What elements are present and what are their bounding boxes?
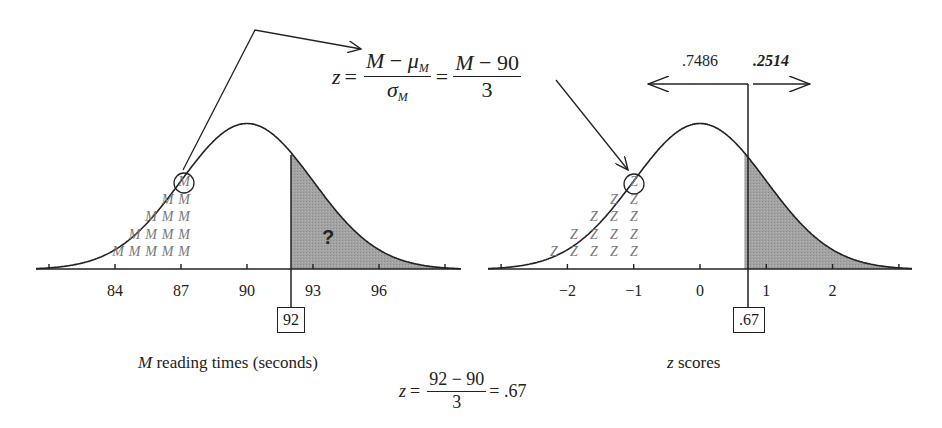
left-normal-curve <box>36 124 461 269</box>
symbol-mark: Z <box>630 244 638 260</box>
symbol-mark: Z <box>570 227 578 243</box>
symbol-mark: Z <box>590 209 598 225</box>
tick-label: 0 <box>696 282 704 300</box>
left-x-axis-label-var: M <box>138 353 152 372</box>
symbol-mark: M <box>162 192 174 208</box>
unknown-area-label: ? <box>322 226 334 249</box>
symbol-mark: Z <box>590 244 598 260</box>
symbol-mark: M <box>178 244 190 260</box>
right-distribution <box>488 84 912 307</box>
symbol-mark: Z <box>610 244 618 260</box>
tick-label: 87 <box>173 282 189 300</box>
formula-fraction-symbolic: M − μM σM <box>364 49 431 104</box>
symbol-mark: M <box>129 227 141 243</box>
symbol-mark: M <box>178 209 190 225</box>
symbol-mark: Z <box>630 209 638 225</box>
symbol-mark: Z <box>590 227 598 243</box>
symbol-mark: Z <box>630 174 638 190</box>
right-x-axis-label-text: scores <box>678 353 720 372</box>
symbol-mark: Z <box>610 227 618 243</box>
right-shaded-tail <box>744 152 912 269</box>
symbol-mark: Z <box>570 244 578 260</box>
formula-equals: = <box>345 64 357 90</box>
symbol-mark: Z <box>610 192 618 208</box>
symbol-mark: M <box>178 192 190 208</box>
tick-label: 1 <box>762 282 770 300</box>
left-x-axis-label-text: reading times (seconds) <box>156 353 317 372</box>
symbol-mark: M <box>145 244 157 260</box>
symbol-mark: Z <box>610 209 618 225</box>
symbol-mark: M <box>112 244 124 260</box>
left-x-axis-label: M reading times (seconds) <box>138 353 318 373</box>
left-cutoff-value-box: 92 <box>277 307 305 333</box>
arrow-to-z-curve <box>556 80 628 170</box>
symbol-mark: M <box>162 209 174 225</box>
symbol-mark: M <box>162 227 174 243</box>
right-cutoff-value-box: .67 <box>733 307 765 333</box>
symbol-mark: M <box>145 209 157 225</box>
symbol-mark: M <box>178 174 190 190</box>
right-x-axis-label: z scores <box>667 353 720 373</box>
symbol-mark: M <box>129 244 141 260</box>
symbol-mark: M <box>145 227 157 243</box>
tick-label: 90 <box>239 282 255 300</box>
right-x-axis-label-var: z <box>667 353 674 372</box>
computed-fraction: 92 − 90 3 <box>427 370 486 413</box>
area-right-label: .2514 <box>753 52 789 70</box>
tick-label: 93 <box>305 282 321 300</box>
area-left-label: .7486 <box>682 52 718 70</box>
formula-equals-2: = <box>436 64 448 90</box>
symbol-mark: Z <box>630 227 638 243</box>
symbol-mark: Z <box>550 244 558 260</box>
z-formula-general: z = M − μM σM = M − 90 3 <box>332 49 524 104</box>
tick-label: −2 <box>559 282 576 300</box>
symbol-mark: Z <box>630 192 638 208</box>
tick-label: 2 <box>829 282 837 300</box>
formula-fraction-numeric: M − 90 3 <box>453 51 521 102</box>
tick-label: 96 <box>371 282 387 300</box>
left-shaded-tail <box>291 152 461 269</box>
symbol-mark: M <box>178 227 190 243</box>
z-formula-computed: z = 92 − 90 3 = .67 <box>399 370 526 413</box>
tick-label: −1 <box>625 282 642 300</box>
left-distribution <box>36 124 461 308</box>
formula-z: z <box>332 64 341 90</box>
tick-label: 84 <box>107 282 123 300</box>
symbol-mark: M <box>162 244 174 260</box>
